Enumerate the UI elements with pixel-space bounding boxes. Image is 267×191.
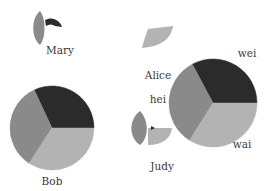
fragment-mary-lens <box>33 11 44 45</box>
label-judy: Judy <box>149 160 174 172</box>
fragment-judy-lens <box>131 111 146 145</box>
pie-group <box>10 59 257 170</box>
label-bob: Bob <box>42 175 63 187</box>
label-mary: Mary <box>46 44 74 56</box>
fragment-alice-fan <box>142 26 173 48</box>
fragment-judy-wedge <box>148 128 172 145</box>
label-alice: Alice <box>144 69 171 81</box>
fragment-mary-wedge <box>45 18 62 27</box>
label-hei: hei <box>150 93 167 105</box>
label-wei: wei <box>238 47 257 59</box>
label-wai: wai <box>233 138 252 150</box>
pie-glyph-chart: MaryAliceheiweiwaiJudyBob <box>0 0 267 191</box>
